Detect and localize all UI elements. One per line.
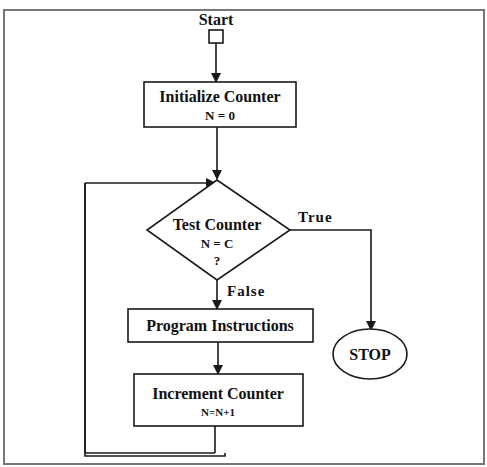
node-stop: STOP xyxy=(333,329,407,379)
increment-counter-title: Increment Counter xyxy=(152,385,284,402)
start-label: Start xyxy=(199,11,234,28)
flowchart-canvas: Start Initialize Counter N = 0 Test Coun… xyxy=(0,0,487,467)
initialize-counter-subtitle: N = 0 xyxy=(205,108,235,123)
node-initialize-counter: Initialize Counter N = 0 xyxy=(144,82,296,127)
test-counter-title: Test Counter xyxy=(173,216,262,233)
stop-label: STOP xyxy=(349,346,391,363)
edge-label-true: True xyxy=(298,209,333,225)
edge-label-false: False xyxy=(227,283,265,299)
start-terminal-square xyxy=(209,30,223,43)
node-program-instructions: Program Instructions xyxy=(128,309,313,342)
test-counter-question: ? xyxy=(214,253,221,268)
test-counter-condition: N = C xyxy=(201,236,234,251)
program-instructions-title: Program Instructions xyxy=(146,317,294,335)
node-increment-counter: Increment Counter N=N+1 xyxy=(134,374,303,426)
increment-counter-subtitle: N=N+1 xyxy=(201,406,235,418)
initialize-counter-title: Initialize Counter xyxy=(159,88,280,105)
